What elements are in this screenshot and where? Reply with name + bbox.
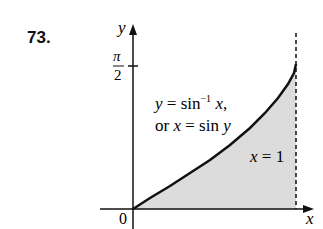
boundary-label: x = 1 xyxy=(250,147,284,167)
pi-denominator: 2 xyxy=(114,67,122,84)
curve-label: y = sin−1 x, or x = sin y xyxy=(155,88,231,137)
y-axis-arrow-icon xyxy=(129,24,137,35)
y-axis-label: y xyxy=(118,18,126,38)
x-axis-label: x xyxy=(306,209,314,229)
origin-label: 0 xyxy=(119,210,127,228)
exponent: −1 xyxy=(200,93,211,104)
pi-numerator: π xyxy=(113,48,121,65)
